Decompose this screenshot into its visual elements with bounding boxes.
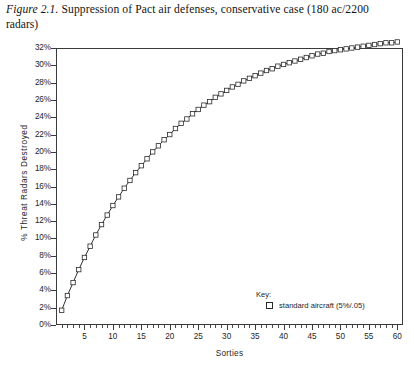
data-point-marker (71, 280, 75, 284)
legend-entry-label: standard aircraft (5%/.05) (279, 301, 365, 310)
data-point-marker (145, 157, 149, 161)
data-point-marker (378, 41, 382, 45)
data-point-marker (202, 103, 206, 107)
data-point-marker (82, 255, 86, 259)
data-point-marker (242, 79, 246, 83)
data-point-marker (321, 51, 325, 55)
data-point-marker (94, 233, 98, 237)
figure-caption-text: Suppression of Pact air defenses, conser… (62, 3, 369, 16)
data-point-marker (116, 195, 120, 199)
legend-title: Key: (256, 290, 365, 299)
data-point-marker (327, 49, 331, 53)
data-point-marker (253, 74, 257, 78)
data-point-marker (111, 203, 115, 207)
data-point-marker (389, 41, 393, 45)
data-point-marker (259, 71, 263, 75)
data-point-marker (247, 76, 251, 80)
figure-label: Figure 2.1. (6, 3, 59, 16)
data-point-marker (105, 213, 109, 217)
series-markers (59, 40, 399, 313)
chart-figure: 0%2%4%6%8%10%12%14%16%18%20%22%24%26%28%… (0, 38, 414, 373)
data-point-marker (367, 43, 371, 47)
data-point-marker (224, 88, 228, 92)
data-point-marker (344, 47, 348, 51)
data-point-marker (77, 267, 81, 271)
data-point-marker (173, 126, 177, 130)
data-point-marker (338, 48, 342, 52)
data-point-marker (156, 144, 160, 148)
data-point-marker (333, 48, 337, 52)
data-point-marker (236, 82, 240, 86)
data-point-marker (162, 138, 166, 142)
data-point-marker (128, 178, 132, 182)
figure-caption: Figure 2.1. Suppression of Pact air defe… (6, 2, 414, 17)
data-point-marker (287, 61, 291, 65)
data-point-marker (151, 150, 155, 154)
data-point-marker (179, 121, 183, 125)
data-point-marker (122, 186, 126, 190)
series-line (62, 42, 398, 310)
data-point-marker (270, 67, 274, 71)
data-point-marker (372, 42, 376, 46)
data-point-marker (293, 59, 297, 63)
data-series-layer (0, 38, 414, 373)
figure-caption-line2: radars) (6, 17, 38, 32)
data-point-marker (219, 92, 223, 96)
legend-entry: standard aircraft (5%/.05) (266, 301, 365, 310)
data-point-marker (298, 57, 302, 61)
data-point-marker (304, 55, 308, 59)
chart-legend: Key: standard aircraft (5%/.05) (256, 290, 365, 310)
data-point-marker (384, 41, 388, 45)
data-point-marker (185, 117, 189, 121)
data-point-marker (264, 68, 268, 72)
data-point-marker (139, 164, 143, 168)
data-point-marker (350, 46, 354, 50)
data-point-marker (88, 244, 92, 248)
data-point-marker (395, 40, 399, 44)
data-point-marker (213, 95, 217, 99)
data-point-marker (133, 170, 137, 174)
data-point-marker (196, 107, 200, 111)
data-point-marker (281, 62, 285, 66)
data-point-marker (168, 132, 172, 136)
data-point-marker (310, 54, 314, 58)
data-point-marker (65, 293, 69, 297)
legend-marker-icon (266, 302, 273, 309)
data-point-marker (59, 308, 63, 312)
data-point-marker (207, 99, 211, 103)
data-point-marker (361, 44, 365, 48)
data-point-marker (99, 222, 103, 226)
data-point-marker (230, 85, 234, 89)
data-point-marker (355, 45, 359, 49)
data-point-marker (190, 112, 194, 116)
data-point-marker (315, 52, 319, 56)
data-point-marker (276, 64, 280, 68)
